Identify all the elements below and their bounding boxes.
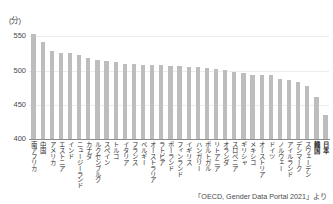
bar: [50, 51, 54, 139]
bar-column: [202, 26, 211, 139]
bar-column: [102, 26, 111, 139]
bar-column: [257, 26, 266, 139]
x-label-column: フィンランド: [175, 141, 184, 201]
bar: [287, 80, 291, 139]
bar: [278, 79, 282, 139]
bar: [241, 73, 245, 139]
y-axis-unit-label: (分): [9, 14, 21, 25]
bar: [68, 53, 72, 139]
bar-column: [111, 26, 120, 139]
bar: [260, 75, 264, 139]
bar: [95, 60, 99, 139]
y-axis-tick-label: 400: [4, 135, 26, 143]
x-axis-tick-label: イギリス: [185, 141, 192, 201]
bar: [123, 64, 127, 139]
bar: [41, 42, 45, 139]
x-axis-tick-label: ポーランド: [167, 141, 174, 201]
bar-column: [47, 26, 56, 139]
x-label-column: フランス: [129, 141, 138, 201]
x-axis-tick-label: ルクセンブルク: [94, 141, 101, 201]
bar: [305, 86, 309, 139]
x-axis-tick-label: スペイン: [103, 141, 110, 201]
x-label-column: エストニア: [56, 141, 65, 201]
x-axis-tick-label: アメリカ: [49, 141, 56, 201]
x-label-column: イタリア: [120, 141, 129, 201]
x-label-column: イギリス: [184, 141, 193, 201]
bar: [296, 82, 300, 139]
bar: [214, 69, 218, 139]
bar-column: [66, 26, 75, 139]
x-label-column: ラトビア: [157, 141, 166, 201]
x-axis-tick-label: トルコ: [112, 141, 119, 201]
x-axis-tick-label: インド: [67, 141, 74, 201]
bar-column: [221, 26, 230, 139]
bar: [132, 64, 136, 139]
bar: [31, 34, 35, 139]
bar-column: [38, 26, 47, 139]
bar-column: [303, 26, 312, 139]
x-label-column: ポーランド: [166, 141, 175, 201]
x-axis-tick-label: ニュージーランド: [76, 141, 83, 201]
x-label-column: スペイン: [102, 141, 111, 201]
bar: [187, 67, 191, 139]
bar-column: [266, 26, 275, 139]
top-crop-strip: [0, 0, 333, 9]
bar-column: [120, 26, 129, 139]
bar-column: [139, 26, 148, 139]
bar-column: [312, 26, 321, 139]
x-label-column: トルコ: [111, 141, 120, 201]
bar-column: [212, 26, 221, 139]
bar: [86, 58, 90, 140]
bar: [114, 62, 118, 139]
bar-column: [294, 26, 303, 139]
x-label-column: 南アフリカ: [29, 141, 38, 201]
bar-column: [275, 26, 284, 139]
bar: [59, 53, 63, 139]
x-axis-tick-label: ラトビア: [158, 141, 165, 201]
y-axis-tick-label: 500: [4, 67, 26, 75]
x-label-column: カナダ: [84, 141, 93, 201]
bar: [150, 65, 154, 139]
x-label-column: ニュージーランド: [75, 141, 84, 201]
x-label-column: ベルギー: [139, 141, 148, 201]
bar-column: [166, 26, 175, 139]
x-axis-tick-label: オーストラリア: [149, 141, 156, 201]
bar: [77, 55, 81, 139]
bar: [269, 75, 273, 139]
bar-column: [285, 26, 294, 139]
x-label-column: アメリカ: [47, 141, 56, 201]
bar-series: [29, 26, 330, 139]
bar: [159, 65, 163, 139]
bar: [223, 70, 227, 139]
x-label-column: インド: [66, 141, 75, 201]
bar: [232, 72, 236, 139]
bar: [323, 115, 327, 139]
x-axis-tick-label: カナダ: [85, 141, 92, 201]
bar-column: [56, 26, 65, 139]
y-axis-tick-labels: 400450500550: [4, 26, 26, 139]
x-label-column: オーストラリア: [148, 141, 157, 201]
x-axis-tick-label: フィンランド: [176, 141, 183, 201]
bar-column: [248, 26, 257, 139]
bar: [141, 65, 145, 139]
x-axis-tick-label: 南アフリカ: [30, 141, 37, 201]
x-axis-tick-label: ベルギー: [140, 141, 147, 201]
bar: [205, 68, 209, 139]
x-axis-tick-label: 中国: [39, 141, 46, 201]
bar-column: [239, 26, 248, 139]
bar: [177, 66, 181, 139]
x-axis-tick-label: フランス: [131, 141, 138, 201]
x-axis-tick-label: イタリア: [122, 141, 129, 201]
bar-column: [321, 26, 330, 139]
bar: [314, 97, 318, 139]
sleep-duration-bar-chart: (分) 400450500550 南アフリカ中国アメリカエストニアインドニュージ…: [0, 0, 333, 204]
bar-column: [148, 26, 157, 139]
bar: [104, 61, 108, 139]
x-label-column: 中国: [38, 141, 47, 201]
bar-column: [184, 26, 193, 139]
bar: [196, 67, 200, 139]
bar-column: [75, 26, 84, 139]
bar: [168, 66, 172, 139]
bar-column: [230, 26, 239, 139]
bar-column: [29, 26, 38, 139]
